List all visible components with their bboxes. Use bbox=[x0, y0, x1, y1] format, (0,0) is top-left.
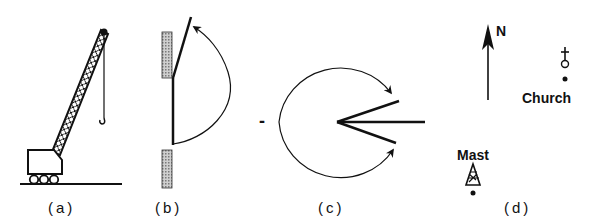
panel-b-label: (b) bbox=[155, 199, 182, 216]
crane-boom bbox=[52, 29, 108, 156]
mast-icon bbox=[466, 164, 480, 196]
church-icon bbox=[561, 47, 569, 82]
diagram-figure: (a) (b) - (c) N Church Mast bbox=[0, 0, 596, 224]
lower-rotation-arc-arrow bbox=[279, 122, 393, 178]
upper-ray bbox=[337, 101, 399, 122]
crane-hook-icon bbox=[100, 118, 105, 124]
crane-cab bbox=[28, 150, 62, 174]
north-label: N bbox=[496, 23, 506, 39]
panel-c-rotation: - (c) bbox=[259, 68, 425, 216]
minus-sign: - bbox=[259, 111, 265, 131]
wall-bottom-block bbox=[162, 150, 172, 188]
crane-wheels bbox=[30, 175, 58, 183]
panel-d-map: N Church Mast (d) bbox=[457, 23, 571, 216]
door-open-leaf bbox=[173, 17, 191, 78]
mast-label: Mast bbox=[457, 147, 489, 163]
panel-c-label: (c) bbox=[318, 199, 345, 216]
panel-a-label: (a) bbox=[48, 199, 75, 216]
wall-top-block bbox=[162, 32, 172, 78]
panel-d-label: (d) bbox=[504, 199, 531, 216]
panel-b-door: (b) bbox=[155, 17, 230, 216]
upper-rotation-arc-arrow bbox=[279, 68, 391, 122]
lower-ray bbox=[337, 122, 396, 143]
church-label: Church bbox=[522, 90, 571, 106]
panel-a-crane: (a) bbox=[20, 29, 122, 217]
